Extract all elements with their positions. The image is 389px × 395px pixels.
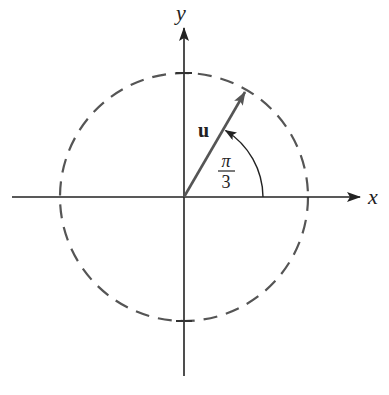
unit-circle-diagram: y x u π 3 bbox=[0, 0, 389, 395]
angle-label-denominator: 3 bbox=[222, 172, 231, 192]
y-axis-label: y bbox=[174, 0, 186, 25]
angle-label-numerator: π bbox=[221, 151, 231, 171]
x-axis-label: x bbox=[367, 184, 378, 209]
vector-u bbox=[184, 92, 245, 197]
angle-arc bbox=[226, 131, 264, 198]
vector-label: u bbox=[198, 119, 209, 141]
